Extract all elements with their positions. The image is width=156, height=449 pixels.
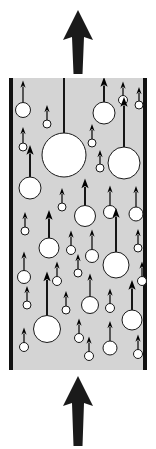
bubble-flow-figure <box>0 0 156 449</box>
bubble-circle <box>108 147 140 179</box>
bubble-circle <box>43 120 51 128</box>
bubble-circle <box>96 164 104 172</box>
bubble-circle <box>20 343 29 352</box>
bubble-circle <box>88 139 96 147</box>
bubble-circle <box>129 207 143 221</box>
bubble-circle <box>135 101 143 109</box>
bubble-circle <box>82 297 99 314</box>
bubble-circle <box>134 350 143 359</box>
bubble-circle <box>93 102 115 124</box>
bubble-circle <box>39 238 59 258</box>
bubble-circle <box>106 304 115 313</box>
channel-wall-right <box>143 78 147 370</box>
bubble-circle <box>62 306 70 314</box>
bubble-circle <box>21 227 29 235</box>
bubble-circle <box>42 133 86 177</box>
bubble-circle <box>138 277 147 286</box>
bubble-circle <box>75 206 96 227</box>
bubble-circle <box>58 203 66 211</box>
channel-wall-left <box>9 78 13 370</box>
bubble-circle <box>16 103 31 118</box>
bubble-circle <box>85 352 94 361</box>
bubble-circle <box>53 277 62 286</box>
bubble-circle <box>74 269 82 277</box>
bubble-circle <box>18 271 31 284</box>
bubble-circle <box>19 143 27 151</box>
bubble-circle <box>103 341 117 355</box>
bubble-circle <box>75 334 84 343</box>
bubble-circle <box>103 252 129 278</box>
bubble-circle <box>34 316 61 343</box>
bubble-circle <box>134 244 142 252</box>
bubble-circle <box>19 177 41 199</box>
figure-canvas <box>0 0 156 449</box>
bubble-circle <box>122 310 142 330</box>
bubble-circle <box>67 246 76 255</box>
bubble-circle <box>86 250 99 263</box>
bubble-circle <box>23 301 31 309</box>
